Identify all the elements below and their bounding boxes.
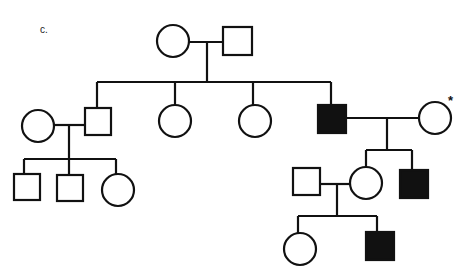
male-unaffected-III-4 — [293, 168, 320, 195]
female-unaffected-III-3 — [102, 174, 134, 206]
male-unaffected-III-2 — [57, 175, 83, 201]
connector-lines — [24, 42, 419, 233]
male-unaffected-I-2 — [223, 27, 252, 55]
male-unaffected-III-1 — [14, 174, 40, 200]
female-unaffected-II-6 — [419, 102, 451, 134]
female-unaffected-IV-1 — [284, 233, 316, 265]
female-unaffected-II-4 — [239, 105, 271, 137]
asterisk-marker-icon: * — [448, 94, 453, 107]
individuals — [14, 25, 451, 265]
male-affected-IV-2 — [366, 232, 394, 260]
female-unaffected-II-1 — [22, 110, 54, 142]
male-affected-III-6 — [400, 170, 428, 198]
pedigree-diagram — [0, 0, 472, 277]
female-unaffected-I-1 — [157, 25, 189, 57]
female-unaffected-III-5 — [350, 167, 382, 199]
female-unaffected-II-3 — [159, 105, 191, 137]
male-affected-II-5 — [318, 105, 346, 133]
panel-label: c. — [40, 24, 48, 35]
male-unaffected-II-2 — [85, 108, 111, 135]
